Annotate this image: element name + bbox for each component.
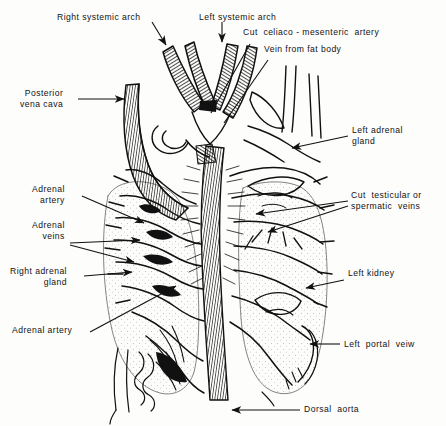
label-left-portal-vein: Left portal veiw — [344, 339, 415, 350]
upper-right-vessels — [244, 66, 321, 162]
label-posterior-vena-cava: Posterior vena cava — [20, 88, 63, 109]
label-right-systemic-arch: Right systemic arch — [57, 12, 141, 23]
label-left-kidney: Left kidney — [348, 268, 395, 279]
label-adrenal-artery-upper: Adrenal artery — [32, 184, 65, 205]
arch-confluence — [192, 112, 230, 144]
label-adrenal-veins: Adrenal veins — [32, 220, 65, 241]
label-left-adrenal-gland: Left adrenal gland — [352, 125, 403, 146]
anatomical-figure: Right systemic arch Left systemic arch C… — [0, 0, 446, 426]
left-kidney-outline — [239, 182, 328, 394]
arch-junction-mark — [199, 100, 217, 112]
leader-right-systemic-arch — [152, 22, 166, 45]
cut-vessel-flare — [250, 92, 284, 128]
label-left-systemic-arch: Left systemic arch — [199, 12, 276, 23]
label-adrenal-artery-lower: Adrenal artery — [12, 325, 72, 336]
label-dorsal-aorta: Dorsal aorta — [304, 404, 359, 415]
label-cut-celiaco-mesenteric: Cut celiaco - mesenteric artery — [243, 27, 379, 38]
anatomy-illustration — [0, 0, 446, 426]
label-vein-from-fat-body: Vein from fat body — [264, 44, 341, 55]
label-right-adrenal-gland: Right adrenal gland — [10, 266, 67, 287]
renal-portal-coil — [152, 126, 216, 164]
label-cut-testicular-veins: Cut testicular or spermatic veins — [351, 190, 422, 211]
leader-left-adrenal-gland — [292, 136, 348, 148]
